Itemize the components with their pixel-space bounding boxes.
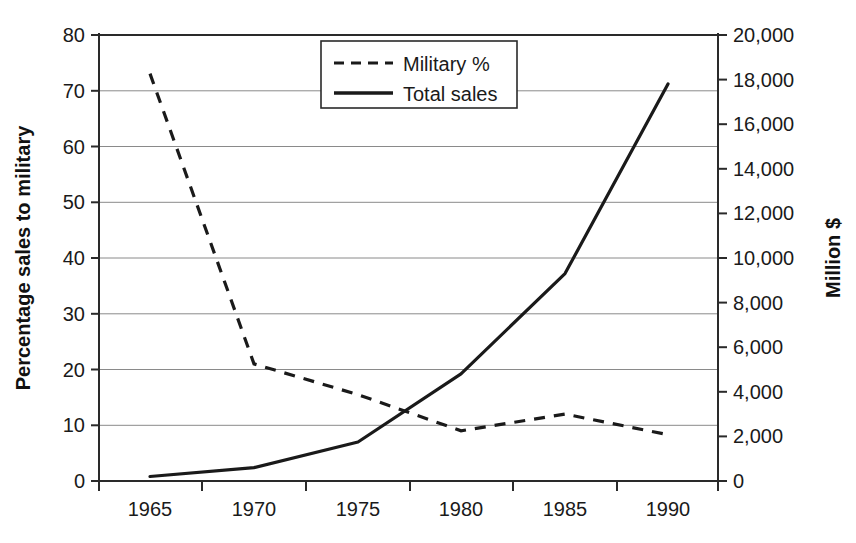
left-axis-tick-labels: 80 70 60 50 40 30 20 10 0 bbox=[63, 24, 85, 492]
left-axis-title: Percentage sales to military bbox=[12, 125, 34, 390]
x-tick-label: 1990 bbox=[646, 498, 691, 520]
left-tick-label: 60 bbox=[63, 136, 85, 158]
right-tick-label: 20,000 bbox=[733, 24, 794, 46]
x-tick-label: 1975 bbox=[336, 498, 381, 520]
x-tick-label: 1980 bbox=[439, 498, 484, 520]
left-tick-label: 0 bbox=[74, 470, 85, 492]
left-tick-label: 40 bbox=[63, 247, 85, 269]
left-tick-label: 10 bbox=[63, 414, 85, 436]
right-tick-label: 0 bbox=[733, 470, 744, 492]
x-tick-label: 1970 bbox=[232, 498, 277, 520]
right-tick-label: 14,000 bbox=[733, 158, 794, 180]
right-axis-ticks bbox=[718, 35, 727, 481]
legend-label: Military % bbox=[403, 53, 490, 75]
right-tick-label: 6,000 bbox=[733, 336, 783, 358]
right-tick-label: 2,000 bbox=[733, 425, 783, 447]
right-tick-label: 12,000 bbox=[733, 202, 794, 224]
left-tick-label: 80 bbox=[63, 24, 85, 46]
left-axis-ticks bbox=[91, 35, 99, 481]
left-tick-label: 30 bbox=[63, 303, 85, 325]
x-axis-ticks bbox=[99, 481, 718, 491]
right-axis-title: Million $ bbox=[822, 218, 844, 298]
x-tick-label: 1965 bbox=[128, 498, 173, 520]
right-tick-label: 4,000 bbox=[733, 381, 783, 403]
left-tick-label: 70 bbox=[63, 80, 85, 102]
x-axis-tick-labels: 1965 1970 1975 1980 1985 1990 bbox=[128, 498, 691, 520]
right-tick-label: 16,000 bbox=[733, 113, 794, 135]
right-tick-label: 10,000 bbox=[733, 247, 794, 269]
right-tick-label: 18,000 bbox=[733, 69, 794, 91]
x-tick-label: 1985 bbox=[543, 498, 588, 520]
left-tick-label: 50 bbox=[63, 191, 85, 213]
chart-svg: 80 70 60 50 40 30 20 10 0 20,000 18,000 … bbox=[0, 0, 856, 543]
left-tick-label: 20 bbox=[63, 359, 85, 381]
legend-label: Total sales bbox=[403, 83, 498, 105]
right-tick-label: 8,000 bbox=[733, 292, 783, 314]
chart-legend: Military % Total sales bbox=[321, 41, 517, 108]
right-axis-tick-labels: 20,000 18,000 16,000 14,000 12,000 10,00… bbox=[733, 24, 794, 492]
chart-figure: 80 70 60 50 40 30 20 10 0 20,000 18,000 … bbox=[0, 0, 856, 543]
